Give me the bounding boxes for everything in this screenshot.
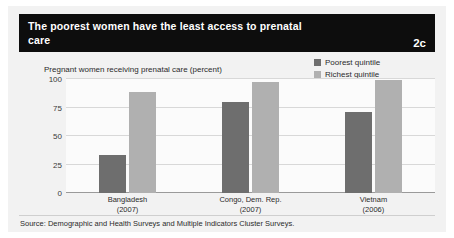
bar bbox=[345, 112, 372, 193]
plot-wrapper: 0255075100 bbox=[44, 79, 435, 193]
y-tick-label: 25 bbox=[44, 160, 62, 169]
y-tick-label: 0 bbox=[44, 189, 62, 198]
legend-label-poorest: Poorest quintile bbox=[325, 58, 380, 67]
chart-header: The poorest women have the least access … bbox=[19, 14, 435, 52]
category-name: Congo, Dem. Rep. bbox=[189, 195, 312, 205]
category-year: (2007) bbox=[66, 205, 189, 215]
bar bbox=[375, 80, 402, 193]
y-axis-caption: Pregnant women receiving prenatal care (… bbox=[44, 65, 222, 74]
bar-groups bbox=[66, 79, 435, 193]
bar bbox=[129, 92, 156, 193]
bar-group bbox=[312, 79, 435, 193]
plot-area bbox=[66, 79, 435, 193]
y-tick-label: 50 bbox=[44, 132, 62, 141]
source-note: Source: Demographic and Health Surveys a… bbox=[20, 219, 294, 228]
bar bbox=[252, 82, 279, 193]
legend-swatch-richest bbox=[314, 71, 321, 78]
figure-number-badge: 2c bbox=[413, 37, 426, 49]
bar-group bbox=[189, 79, 312, 193]
category-year: (2007) bbox=[189, 205, 312, 215]
category-label: Bangladesh(2007) bbox=[66, 195, 189, 215]
y-tick-label: 75 bbox=[44, 103, 62, 112]
chart-title: The poorest women have the least access … bbox=[28, 19, 318, 47]
y-tick-label: 100 bbox=[44, 75, 62, 84]
chart-card: The poorest women have the least access … bbox=[8, 6, 446, 232]
figure-panel: The poorest women have the least access … bbox=[0, 0, 454, 238]
category-label: Congo, Dem. Rep.(2007) bbox=[189, 195, 312, 215]
bar bbox=[99, 155, 126, 193]
bar-group bbox=[66, 79, 189, 193]
bar bbox=[222, 102, 249, 193]
footer-divider bbox=[19, 215, 435, 216]
category-label: Vietnam(2006) bbox=[312, 195, 435, 215]
category-name: Vietnam bbox=[312, 195, 435, 205]
legend-item-poorest: Poorest quintile bbox=[314, 57, 434, 68]
category-name: Bangladesh bbox=[66, 195, 189, 205]
x-axis-category-labels: Bangladesh(2007)Congo, Dem. Rep.(2007)Vi… bbox=[66, 195, 435, 215]
category-year: (2006) bbox=[312, 205, 435, 215]
legend-swatch-poorest bbox=[314, 59, 321, 66]
